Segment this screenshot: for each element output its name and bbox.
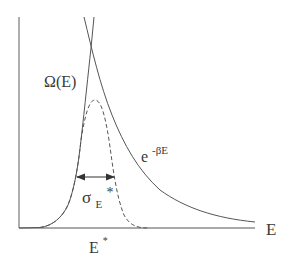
sigma-base: σ xyxy=(82,188,91,207)
omega-label: Ω(E) xyxy=(44,73,76,91)
diagram-svg: Ω(E) e -βE σ E * E * E xyxy=(0,0,290,269)
sigma-star: * xyxy=(106,185,113,200)
boltzmann-base: e xyxy=(141,148,148,165)
estar-superscript: * xyxy=(103,235,108,246)
peaked-distribution-curve xyxy=(40,100,148,228)
estar-base: E xyxy=(89,239,99,256)
estar-label: E * xyxy=(89,235,108,256)
sigma-label: σ E * xyxy=(82,185,113,212)
x-axis-label: E xyxy=(266,220,276,239)
sigma-subscript: E xyxy=(95,198,102,210)
boltzmann-label: e -βE xyxy=(141,144,168,165)
boltzmann-exponent: -βE xyxy=(152,144,168,156)
diagram-canvas: Ω(E) e -βE σ E * E * E xyxy=(0,0,290,269)
